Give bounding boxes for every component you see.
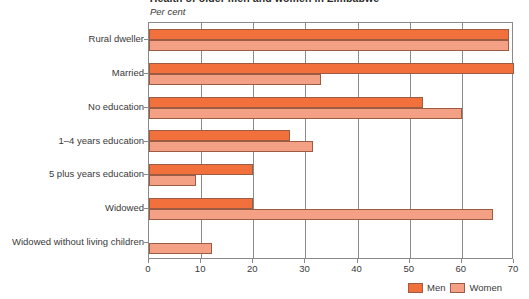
bar-women — [149, 141, 313, 152]
chart-legend: MenWomen — [408, 283, 502, 293]
legend-item-men[interactable]: Men — [408, 283, 445, 293]
bar-group — [149, 125, 512, 159]
bar-women — [149, 243, 212, 254]
bar-group — [149, 158, 512, 192]
bar-men — [149, 198, 253, 209]
bar-men — [149, 29, 509, 40]
plot-area — [148, 22, 513, 259]
y-axis-label: 1–4 years education — [0, 135, 144, 146]
legend-swatch-men — [408, 283, 423, 293]
bar-women — [149, 175, 196, 186]
bar-group — [149, 192, 512, 226]
x-axis-ticks: 010203040506070 — [148, 259, 513, 275]
legend-item-women[interactable]: Women — [450, 283, 502, 293]
x-axis-tick-label: 50 — [403, 263, 414, 274]
x-axis-tick-label: 10 — [195, 263, 206, 274]
bar-group — [149, 23, 512, 57]
bar-group — [149, 91, 512, 125]
bar-women — [149, 40, 509, 51]
y-axis-category-labels: Rural dwellerMarriedNo education1–4 year… — [0, 22, 144, 259]
legend-swatch-women — [450, 283, 465, 293]
chart-title: Health of older men and women in Zimbabw… — [0, 0, 529, 2]
bar-men — [149, 63, 514, 74]
x-axis-tick-label: 70 — [508, 263, 519, 274]
x-axis-tick-label: 0 — [145, 263, 150, 274]
bar-group — [149, 57, 512, 91]
y-axis-label: Widowed without living children — [0, 236, 144, 247]
x-axis-tick-label: 30 — [299, 263, 310, 274]
bar-men — [149, 130, 290, 141]
bar-men — [149, 164, 253, 175]
x-axis-unit-label: Per cent — [150, 6, 185, 17]
y-axis-label: 5 plus years education — [0, 168, 144, 179]
y-axis-label: No education — [0, 101, 144, 112]
bar-women — [149, 209, 493, 220]
legend-label: Men — [427, 283, 445, 293]
y-axis-label: Widowed — [0, 202, 144, 213]
bar-men — [149, 97, 423, 108]
x-axis-tick-label: 60 — [456, 263, 467, 274]
x-axis-tick-label: 40 — [351, 263, 362, 274]
bar-women — [149, 108, 462, 119]
bar-rows — [149, 23, 512, 258]
y-axis-label: Married — [0, 67, 144, 78]
y-axis-label: Rural dweller — [0, 33, 144, 44]
bar-women — [149, 74, 321, 85]
legend-label: Women — [469, 283, 502, 293]
chart-container: Health of older men and women in Zimbabw… — [0, 0, 529, 299]
x-axis-tick-label: 20 — [247, 263, 258, 274]
bar-group — [149, 226, 512, 260]
